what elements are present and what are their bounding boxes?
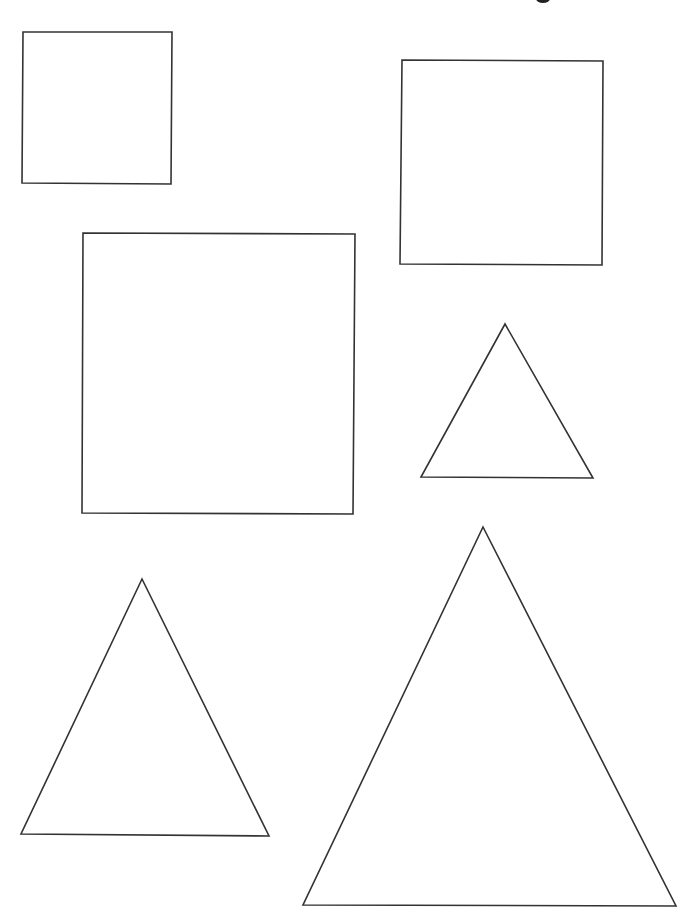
small-triangle xyxy=(421,324,593,478)
medium-square xyxy=(400,60,603,265)
large-triangle xyxy=(303,527,676,906)
large-square xyxy=(82,233,355,514)
shapes-canvas xyxy=(0,0,695,914)
medium-triangle xyxy=(21,579,269,836)
small-square xyxy=(22,32,172,184)
